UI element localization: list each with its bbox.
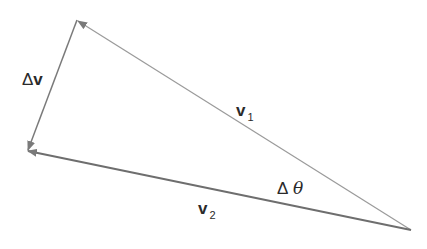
vector-v2-arrow	[28, 151, 411, 230]
v1-label: v1	[236, 102, 254, 123]
v-symbol: v	[236, 101, 245, 120]
subscript-2: 2	[209, 209, 215, 221]
subscript-1: 1	[247, 111, 253, 123]
delta-symbol: Δ	[22, 70, 33, 89]
theta-symbol: θ	[293, 178, 303, 198]
delta-v-label: Δv	[22, 71, 43, 88]
v-symbol: v	[33, 70, 42, 89]
delta-symbol: Δ	[277, 179, 288, 198]
delta-theta-label: Δ θ	[277, 180, 303, 197]
v2-label: v2	[198, 200, 216, 221]
vector-v1-arrow	[78, 21, 411, 230]
v-symbol: v	[198, 199, 207, 218]
